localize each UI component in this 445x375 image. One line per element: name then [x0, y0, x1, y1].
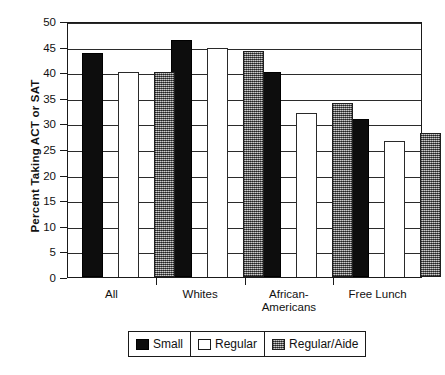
x-axis-label-line: All [105, 288, 118, 300]
legend-label: Regular/Aide [289, 337, 358, 351]
y-axis-tick-mark [60, 252, 67, 253]
x-axis-tick-mark [333, 278, 334, 285]
stippled-gray-swatch [272, 339, 285, 350]
y-axis-tick-label: 40 [22, 68, 56, 78]
x-axis-label-line: Free Lunch [349, 288, 407, 300]
legend-item-regular[interactable]: Regular [191, 332, 265, 356]
x-axis-label-line: Americans [245, 301, 334, 314]
y-axis-tick-mark [60, 73, 67, 74]
legend-label: Small [153, 337, 183, 351]
y-axis-tick-mark [60, 124, 67, 125]
y-axis-tick-mark [60, 99, 67, 100]
y-axis-tick-mark [60, 150, 67, 151]
legend-label: Regular [215, 337, 257, 351]
y-axis-tick-label: 20 [22, 171, 56, 181]
solid-black-swatch [136, 339, 149, 350]
y-axis-tick-label: 30 [22, 119, 56, 129]
y-axis-tick-label: 50 [22, 17, 56, 27]
legend-item-small[interactable]: Small [129, 332, 191, 356]
x-axis-category-label-free-lunch: Free Lunch [333, 288, 422, 301]
gridline [68, 23, 421, 24]
plot-area [67, 22, 422, 278]
y-axis-tick-label: 15 [22, 196, 56, 206]
x-axis-category-label-african-americans: African-Americans [245, 288, 334, 313]
y-axis-tick-mark [60, 201, 67, 202]
bar-regular-african-americans [296, 113, 317, 277]
y-axis-tick-label: 45 [22, 43, 56, 53]
y-axis-tick-label: 35 [22, 94, 56, 104]
y-axis-tick-mark [60, 227, 67, 228]
bar-small-all [82, 53, 103, 277]
x-axis-label-line: African- [269, 288, 309, 300]
y-axis-tick-label: 10 [22, 222, 56, 232]
bar-regular-whites [207, 48, 228, 277]
y-axis-tick-mark [60, 278, 67, 279]
bar-regular-all [118, 72, 139, 277]
bar-regular-free-lunch [384, 141, 405, 277]
y-axis-tick-mark [60, 176, 67, 177]
y-axis-tick-mark [60, 48, 67, 49]
x-axis-tick-mark [245, 278, 246, 285]
x-axis-tick-mark [156, 278, 157, 285]
legend-item-regular-aide[interactable]: Regular/Aide [265, 332, 365, 356]
x-axis-label-line: Whites [183, 288, 218, 300]
bar-regular-aide-whites [243, 51, 264, 277]
bar-regular-aide-free-lunch [420, 133, 441, 277]
bar-regular-aide-all [154, 72, 175, 277]
bar-regular-aide-african-americans [332, 103, 353, 277]
x-axis-category-label-all: All [67, 288, 156, 301]
bar-chart-figure: Percent Taking ACT or SAT 05101520253035… [0, 0, 445, 375]
x-axis-category-label-whites: Whites [156, 288, 245, 301]
gridline [68, 49, 421, 50]
outline-white-swatch [198, 339, 211, 350]
chart-legend: SmallRegularRegular/Aide [128, 331, 366, 357]
y-axis-tick-label: 5 [22, 247, 56, 257]
y-axis-tick-label: 25 [22, 145, 56, 155]
y-axis-tick-label: 0 [22, 273, 56, 283]
y-axis-tick-mark [60, 22, 67, 23]
